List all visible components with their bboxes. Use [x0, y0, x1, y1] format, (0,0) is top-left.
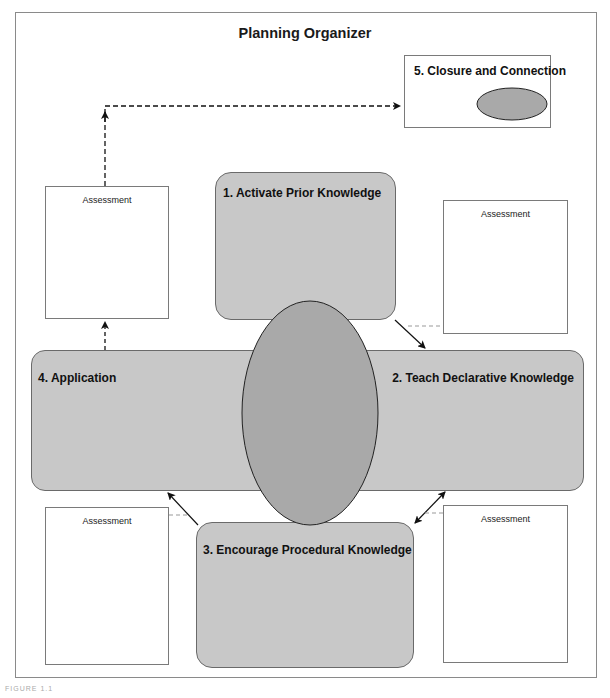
- figure-caption: FIGURE 1.1: [5, 685, 53, 692]
- arrow-procedural-to-application: [168, 493, 198, 525]
- arrow-declarative-procedural: [415, 492, 445, 523]
- center-ellipse: [242, 301, 378, 525]
- dashed-arrow-to-closure: [105, 106, 400, 186]
- arrow-activate-to-declarative: [395, 320, 425, 348]
- closure-ellipse: [477, 88, 547, 120]
- connectors-layer: [0, 0, 610, 698]
